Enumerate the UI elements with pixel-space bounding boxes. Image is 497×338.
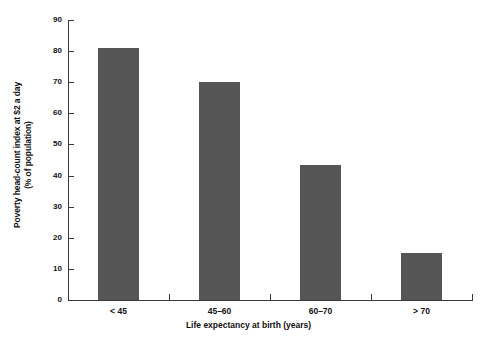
bar [401, 253, 442, 300]
y-axis-tick [69, 144, 74, 145]
x-axis-tick [371, 294, 372, 301]
y-axis-tick [69, 269, 74, 270]
y-axis-tick [69, 51, 74, 52]
y-axis-tick-label: 60 [46, 109, 62, 117]
y-axis-tick-label: 40 [46, 172, 62, 180]
y-axis-tick-label: 10 [46, 265, 62, 273]
y-axis-tick-label: 30 [46, 203, 62, 211]
x-axis-end-tick [472, 294, 473, 301]
x-axis-category-label: < 45 [68, 306, 169, 316]
x-axis-tick [169, 294, 170, 301]
bar [98, 48, 139, 300]
bar-chart-figure: Poverty head-count index at $2 a day (% … [0, 0, 497, 338]
y-axis-title-text: Poverty head-count index at $2 a day (% … [12, 82, 34, 228]
y-axis-tick [69, 20, 74, 21]
y-axis-tick-label: 80 [46, 47, 62, 55]
bar [199, 82, 240, 300]
y-axis-title: Poverty head-count index at $2 a day (% … [0, 0, 46, 310]
y-axis-tick [69, 207, 74, 208]
y-axis-tick [69, 176, 74, 177]
x-axis-category-label: 60–70 [270, 306, 371, 316]
y-axis-tick-label: 20 [46, 234, 62, 242]
y-axis-title-line1: Poverty head-count index at $2 a day [12, 82, 22, 228]
x-axis-category-label: 45–60 [169, 306, 270, 316]
y-axis-line [68, 20, 69, 301]
y-axis-tick [69, 300, 74, 301]
y-axis-tick [69, 238, 74, 239]
y-axis-tick-label: 50 [46, 140, 62, 148]
y-axis-tick [69, 82, 74, 83]
y-axis-tick-label: 70 [46, 78, 62, 86]
bar [300, 165, 341, 300]
y-axis-tick-label: 0 [46, 296, 62, 304]
y-axis-tick [69, 113, 74, 114]
x-axis-title: Life expectancy at birth (years) [0, 320, 497, 330]
y-axis-tick-label: 90 [46, 16, 62, 24]
x-axis-tick [270, 294, 271, 301]
y-axis-title-line2: (% of population) [23, 82, 34, 228]
x-axis-category-label: > 70 [371, 306, 472, 316]
